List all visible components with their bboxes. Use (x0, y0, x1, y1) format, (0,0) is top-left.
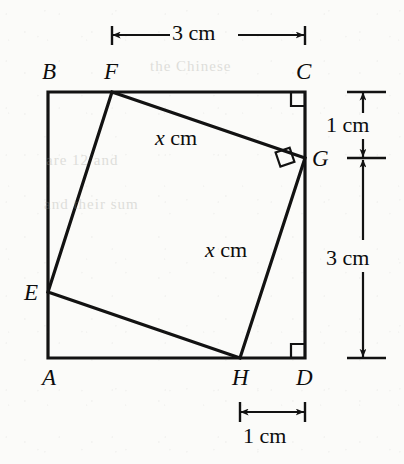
side-label-gh-variable: x (205, 237, 215, 262)
side-label-gh-unit: cm (220, 237, 247, 262)
dimension-label-right-upper: 1 cm (326, 114, 369, 136)
bottom-dimension-line (240, 402, 305, 422)
dimension-label-top: 3 cm (172, 22, 215, 44)
dimension-label-right-lower: 3 cm (326, 247, 369, 269)
side-label-gh: x cm (205, 239, 247, 261)
right-angle-mark-d (291, 344, 305, 358)
right-angle-square-d (291, 344, 305, 358)
vertex-label-b: B (42, 60, 56, 83)
side-label-fg-variable: x (155, 125, 165, 150)
vertex-label-d: D (296, 366, 313, 389)
vertex-label-a: A (42, 366, 56, 389)
vertex-label-c: C (296, 60, 311, 83)
vertex-label-e: E (24, 281, 38, 304)
dimension-label-bottom: 1 cm (243, 425, 286, 447)
side-label-fg-unit: cm (170, 125, 197, 150)
side-label-fg: x cm (155, 127, 197, 149)
vertex-label-g: G (312, 147, 329, 170)
vertex-label-f: F (104, 60, 118, 83)
vertex-label-h: H (232, 366, 249, 389)
right-angle-mark-c (291, 92, 305, 106)
figure-canvas (0, 0, 404, 464)
geometry-figure: the Chinese are 12 and and their sum A B… (0, 0, 404, 464)
right-angle-square-c (291, 92, 305, 106)
